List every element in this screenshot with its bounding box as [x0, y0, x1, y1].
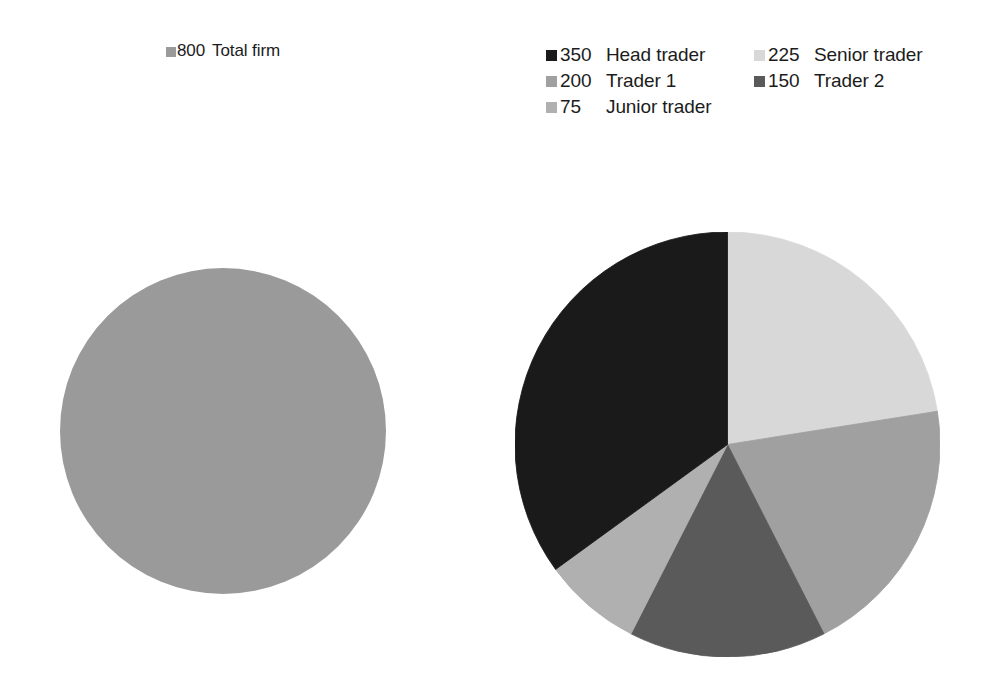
legend-entry-junior-trader[interactable]: 75 Junior trader: [546, 94, 754, 119]
legend-swatch-head-trader: [546, 50, 557, 61]
trader-breakdown-pie-svg: [515, 232, 940, 657]
legend-value-total-firm: 800: [177, 40, 205, 62]
legend-row: 75 Junior trader: [546, 94, 923, 119]
legend-label-head-trader: Head trader: [606, 42, 705, 67]
legend-value-trader-1: 200: [560, 68, 598, 93]
legend-row: 200 Trader 1 150 Trader 2: [546, 68, 923, 93]
legend-entry-total-firm[interactable]: 800 Total firm: [166, 40, 280, 62]
legend-row: 350 Head trader 225 Senior trader: [546, 42, 923, 67]
legend-entry-trader-1[interactable]: 200 Trader 1: [546, 68, 754, 93]
legend-label-junior-trader: Junior trader: [606, 94, 711, 119]
legend-swatch-senior-trader: [754, 50, 765, 61]
right-chart-legend: 350 Head trader 225 Senior trader 200 Tr…: [546, 42, 923, 120]
legend-swatch-trader-2: [754, 76, 765, 87]
trader-breakdown-pie-chart[interactable]: [515, 232, 940, 657]
legend-swatch-total-firm: [166, 47, 176, 57]
legend-label-total-firm: Total firm: [212, 40, 280, 62]
legend-swatch-junior-trader: [546, 102, 557, 113]
legend-entry-trader-2[interactable]: 150 Trader 2: [754, 68, 884, 93]
total-firm-pie-chart[interactable]: [60, 268, 386, 594]
legend-row: 800 Total firm: [166, 40, 280, 62]
legend-label-trader-1: Trader 1: [606, 68, 676, 93]
legend-value-head-trader: 350: [560, 42, 598, 67]
legend-label-trader-2: Trader 2: [814, 68, 884, 93]
pie-slice[interactable]: [60, 268, 386, 594]
legend-label-senior-trader: Senior trader: [814, 42, 923, 67]
legend-swatch-trader-1: [546, 76, 557, 87]
legend-value-trader-2: 150: [768, 68, 806, 93]
pie-slice[interactable]: [728, 232, 938, 445]
legend-entry-head-trader[interactable]: 350 Head trader: [546, 42, 754, 67]
left-chart-legend: 800 Total firm: [166, 40, 280, 62]
legend-entry-senior-trader[interactable]: 225 Senior trader: [754, 42, 923, 67]
legend-value-junior-trader: 75: [560, 94, 598, 119]
legend-value-senior-trader: 225: [768, 42, 806, 67]
total-firm-pie-svg: [60, 268, 386, 594]
